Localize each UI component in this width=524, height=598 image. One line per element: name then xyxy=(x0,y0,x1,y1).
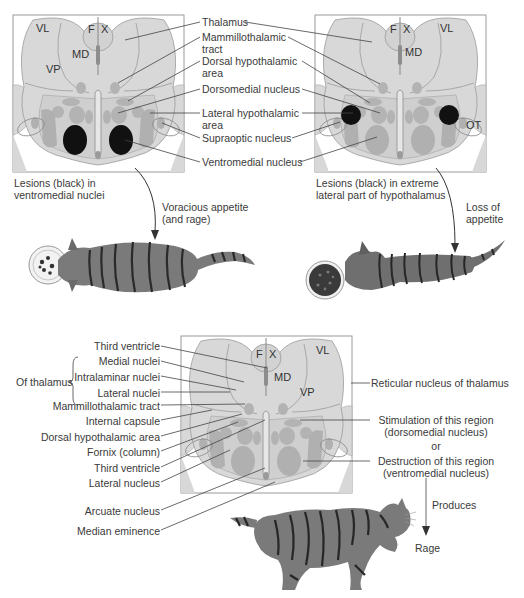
cat-rage-side-view xyxy=(230,498,416,590)
label-rage: Rage xyxy=(415,542,440,554)
region-label-md: MD xyxy=(274,371,291,383)
lesion-left xyxy=(63,125,87,155)
label-third-ventricle-upper: Third ventricle xyxy=(94,340,160,352)
label-thalamus: Thalamus xyxy=(202,16,248,28)
effect-loss-of-appetite: Loss ofappetite xyxy=(466,201,503,225)
region-label-ot: OT xyxy=(466,119,481,131)
label-supraoptic-nucleus: Supraoptic nucleus xyxy=(202,132,291,144)
brain-section-ventromedial-lesion xyxy=(13,15,184,172)
label-internal-capsule: Internal capsule xyxy=(86,415,160,427)
label-arcuate-nucleus: Arcuate nucleus xyxy=(85,505,160,517)
region-label-vl: VL xyxy=(316,344,329,356)
region-label-md: MD xyxy=(72,48,89,60)
label-dorsomedial-nucleus: Dorsomedial nucleus xyxy=(202,83,300,95)
brain-section-rage xyxy=(181,336,352,493)
label-reticular-nucleus: Reticular nucleus of thalamus xyxy=(371,377,509,389)
region-label-md: MD xyxy=(405,46,422,58)
label-ventromedial-nucleus: Ventromedial nucleus xyxy=(202,156,302,168)
label-lateral-hypothalamic-area: Lateral hypothalamicarea xyxy=(202,107,299,131)
label-third-ventricle-lower: Third ventricle xyxy=(94,462,160,474)
region-label-f: F xyxy=(390,23,397,35)
cat-thin-top-view xyxy=(306,240,505,299)
label-mammillothalamic-tract: Mammillothalamictract xyxy=(202,31,286,55)
region-label-f: F xyxy=(88,23,95,35)
lesion-right xyxy=(109,125,133,155)
label-destruction-region: Destruction of this region(ventromedial … xyxy=(371,455,501,479)
label-mammillothalamic-tract: Mammillothalamic tract xyxy=(53,400,160,412)
lesion-left xyxy=(341,105,361,125)
label-fornix-column: Fornix (column) xyxy=(87,446,160,458)
cat-obese-top-view xyxy=(29,238,255,292)
label-dorsal-hypothalamic-area: Dorsal hypothalamic area xyxy=(41,431,160,443)
arrow-head-appetite xyxy=(151,230,159,240)
label-dorsal-hypothalamic-area: Dorsal hypothalamicarea xyxy=(202,55,297,79)
region-label-vp: VP xyxy=(300,386,315,398)
caption-ventromedial-lesion: Lesions (black) inventromedial nuclei xyxy=(14,177,104,201)
caption-lateral-lesion: Lesions (black) in extremelateral part o… xyxy=(316,177,446,201)
region-label-x: X xyxy=(403,23,410,35)
label-intralaminar-nuclei: Intralaminar nuclei xyxy=(74,371,160,383)
effect-voracious-appetite: Voracious appetite(and rage) xyxy=(162,201,248,225)
region-label-x: X xyxy=(269,348,276,360)
label-lateral-nuclei: Lateral nuclei xyxy=(98,387,160,399)
label-medial-nuclei: Medial nuclei xyxy=(99,355,160,367)
region-label-x: X xyxy=(101,23,108,35)
region-label-vl: VL xyxy=(440,22,453,34)
label-lateral-nucleus: Lateral nucleus xyxy=(89,477,160,489)
label-stimulation-region: Stimulation of this region(dorsomedial n… xyxy=(371,414,501,438)
label-or: or xyxy=(371,440,501,452)
arrow-head-loss xyxy=(451,243,459,253)
lesion-right xyxy=(439,105,459,125)
arrow-head-rage xyxy=(422,526,430,536)
label-median-eminence: Median eminence xyxy=(77,525,160,537)
label-produces: Produces xyxy=(432,499,476,511)
label-of-thalamus-group: Of thalamus xyxy=(16,376,73,388)
region-label-vl: VL xyxy=(36,22,49,34)
region-label-f: F xyxy=(256,348,263,360)
region-label-vp: VP xyxy=(46,63,61,75)
